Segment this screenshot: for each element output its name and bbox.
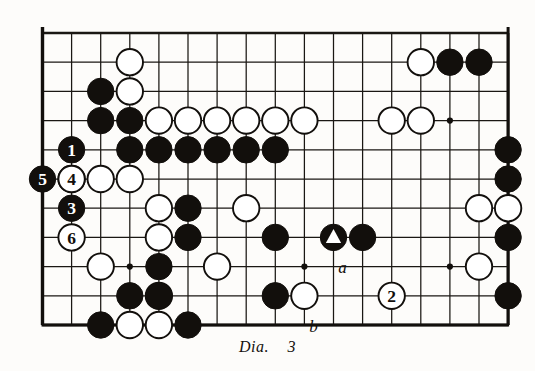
black-stone[interactable] (495, 224, 521, 250)
move-number: 5 (38, 169, 47, 189)
white-stone[interactable] (88, 253, 114, 279)
black-stone[interactable] (233, 137, 259, 163)
white-stone[interactable] (466, 195, 492, 221)
move-4-white[interactable]: 4 (58, 166, 84, 192)
black-stone[interactable] (437, 49, 463, 75)
white-stone[interactable] (466, 253, 492, 279)
white-stone[interactable] (408, 49, 434, 75)
point-label-a: a (338, 258, 347, 277)
white-stone[interactable] (262, 107, 288, 133)
black-stone[interactable] (117, 283, 143, 309)
black-stone[interactable] (175, 195, 201, 221)
white-stone[interactable] (291, 107, 317, 133)
white-stone[interactable] (204, 107, 230, 133)
move-number: 3 (67, 198, 76, 218)
move-number: 4 (67, 169, 76, 189)
move-5-black[interactable]: 5 (29, 166, 55, 192)
black-stone[interactable] (117, 107, 143, 133)
white-stone[interactable] (291, 283, 317, 309)
star-point (127, 264, 133, 270)
white-stone[interactable] (88, 166, 114, 192)
caption-number: 3 (288, 338, 297, 355)
black-stone[interactable] (88, 107, 114, 133)
move-6-white[interactable]: 6 (58, 224, 84, 250)
black-stone[interactable] (262, 283, 288, 309)
black-stone[interactable] (204, 137, 230, 163)
white-stone[interactable] (379, 107, 405, 133)
black-stone[interactable] (117, 137, 143, 163)
black-stone[interactable] (262, 137, 288, 163)
black-stone[interactable] (495, 137, 521, 163)
black-stone[interactable] (495, 283, 521, 309)
white-stone[interactable] (175, 107, 201, 133)
black-stone[interactable] (88, 78, 114, 104)
move-1-black[interactable]: 1 (58, 137, 84, 163)
black-stone[interactable] (88, 312, 114, 338)
white-stone[interactable] (146, 312, 172, 338)
black-stone[interactable] (175, 137, 201, 163)
triangle-marked-black-stone[interactable] (320, 224, 346, 250)
white-stone[interactable] (117, 312, 143, 338)
diagram-stage: 123456 ab Dia. 3 (0, 0, 535, 371)
white-stone[interactable] (146, 107, 172, 133)
white-stone[interactable] (146, 224, 172, 250)
black-stone[interactable] (146, 253, 172, 279)
white-stone[interactable] (117, 49, 143, 75)
white-stone[interactable] (233, 195, 259, 221)
black-stone[interactable] (146, 137, 172, 163)
white-stone[interactable] (117, 78, 143, 104)
white-stone[interactable] (146, 195, 172, 221)
star-points (127, 118, 453, 270)
star-point (447, 264, 453, 270)
move-number: 1 (67, 140, 76, 160)
go-board[interactable]: 123456 ab (0, 0, 535, 371)
point-label-b: b (309, 317, 318, 336)
star-point (301, 264, 307, 270)
black-stone[interactable] (466, 49, 492, 75)
black-stone[interactable] (262, 224, 288, 250)
move-number: 2 (387, 286, 396, 306)
black-stone[interactable] (495, 166, 521, 192)
move-2-white[interactable]: 2 (379, 283, 405, 309)
black-stone[interactable] (175, 312, 201, 338)
black-stone[interactable] (349, 224, 375, 250)
white-stone[interactable] (204, 253, 230, 279)
black-stone[interactable] (175, 224, 201, 250)
figure-caption: Dia. 3 (0, 338, 535, 356)
black-stone[interactable] (146, 283, 172, 309)
white-stone[interactable] (408, 107, 434, 133)
star-point (447, 118, 453, 124)
white-stone[interactable] (233, 107, 259, 133)
white-stone[interactable] (495, 195, 521, 221)
white-stone[interactable] (117, 166, 143, 192)
caption-label: Dia. (239, 338, 269, 355)
move-number: 6 (67, 228, 76, 248)
move-3-black[interactable]: 3 (58, 195, 84, 221)
